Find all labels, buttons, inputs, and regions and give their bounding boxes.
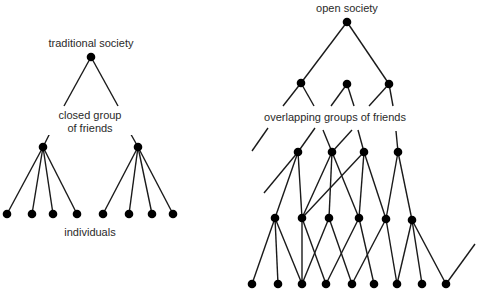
right-diagram-edge [332, 130, 352, 152]
diagram-canvas: traditional society closed group of frie… [0, 0, 486, 297]
right-diagram-edge [301, 22, 347, 83]
right-diagram-edge [386, 219, 397, 284]
right-diagram-edge [275, 218, 302, 284]
right-diagram-edge [302, 152, 332, 218]
left-diagram-edge [103, 147, 138, 214]
individual-node [3, 210, 12, 219]
right-diagram-edge [283, 83, 301, 106]
individual-node [442, 280, 451, 289]
group-node-level3 [298, 214, 307, 223]
left-diagram-edge [91, 57, 118, 106]
individual-node [148, 210, 157, 219]
right-diagram-edge [352, 219, 386, 284]
individual-node [49, 210, 58, 219]
individual-node [370, 280, 379, 289]
right-diagram-edge [347, 22, 389, 84]
right-diagram-edge [398, 152, 412, 220]
individual-node [348, 280, 357, 289]
group-node-level3 [271, 214, 280, 223]
individual-node [393, 280, 402, 289]
group-node-level2 [360, 148, 369, 157]
left-diagram-edge [138, 147, 152, 214]
traditional-society-node [87, 53, 96, 62]
right-diagram-edge [298, 152, 302, 218]
group-node-level2 [328, 148, 337, 157]
individual-node [274, 280, 283, 289]
group-node-level1 [297, 79, 306, 88]
right-diagram-edge [275, 152, 298, 218]
left-diagram-edge [138, 147, 173, 214]
closed-group-label-line1: closed group [40, 109, 140, 122]
right-diagram-edge [329, 152, 332, 218]
right-diagram-edge [386, 152, 398, 219]
overlapping-groups-label: overlapping groups of friends [263, 111, 407, 124]
left-diagram-edge [64, 57, 91, 106]
individual-node [248, 280, 257, 289]
individual-node [125, 210, 134, 219]
group-node-level2 [294, 148, 303, 157]
individuals-label: individuals [60, 226, 120, 239]
right-diagram-edge [359, 218, 374, 284]
individual-node [99, 210, 108, 219]
right-diagram-edge [252, 218, 275, 284]
right-diagram-edge [359, 152, 364, 218]
right-diagram-edge [364, 152, 386, 219]
closed-group-node [39, 143, 48, 152]
group-node-level1 [343, 80, 352, 89]
right-diagram-edge [264, 152, 298, 193]
group-node-level1 [385, 80, 394, 89]
right-diagram-edge [446, 244, 475, 284]
right-diagram-edge [369, 84, 389, 106]
group-node-level2 [394, 148, 403, 157]
right-diagram-edge [275, 218, 278, 284]
right-diagram-edge [329, 218, 352, 284]
closed-group-label-line2: of friends [40, 122, 140, 135]
right-diagram-edge [326, 218, 359, 284]
right-diagram-edge [397, 220, 412, 284]
group-node-level3 [355, 214, 364, 223]
individual-node [73, 210, 82, 219]
open-society-label: open society [306, 2, 388, 15]
right-diagram-edge [298, 128, 315, 152]
closed-group-node [134, 143, 143, 152]
right-diagram-edge [252, 128, 268, 151]
closed-group-label: closed group of friends [40, 109, 140, 135]
individual-node [28, 210, 37, 219]
group-node-level3 [382, 215, 391, 224]
individual-node [322, 280, 331, 289]
group-node-level3 [408, 216, 417, 225]
group-node-level3 [325, 214, 334, 223]
individual-node [169, 210, 178, 219]
individual-node [418, 280, 427, 289]
open-society-node [343, 18, 352, 27]
traditional-society-label: traditional society [30, 37, 152, 50]
individual-node [298, 280, 307, 289]
